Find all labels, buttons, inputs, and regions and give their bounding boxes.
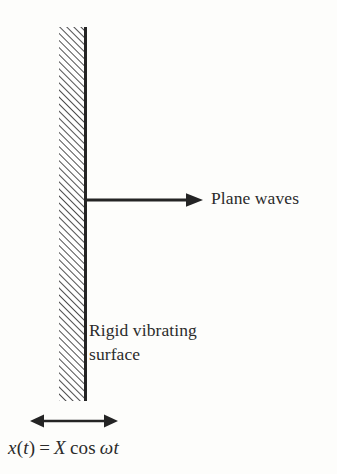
wall-hatch-pattern (59, 27, 84, 401)
plane-wave-radiation-figure: Plane waves Rigid vibrating surface x(t)… (0, 0, 337, 474)
equation-amplitude: X (54, 437, 66, 458)
plane-wave-arrow (85, 190, 205, 210)
wall-face-line (84, 27, 87, 401)
surface-label-line-1: Rigid vibrating (89, 318, 197, 342)
surface-label-line-2: surface (89, 342, 197, 366)
equation-cos-function: cos (70, 437, 96, 458)
equation-paren-close: ) (29, 437, 36, 458)
equation-time-variable: t (113, 437, 118, 458)
displacement-double-arrow (30, 410, 118, 432)
equation-lhs-variable: x (8, 437, 17, 458)
rigid-vibrating-surface-label: Rigid vibrating surface (89, 318, 197, 366)
equation-equals-sign: = (39, 437, 50, 458)
plane-waves-label: Plane waves (211, 188, 299, 209)
equation-omega: ω (100, 437, 114, 458)
rigid-wall (59, 27, 88, 401)
displacement-equation: x(t)=Xcosωt (8, 435, 119, 461)
